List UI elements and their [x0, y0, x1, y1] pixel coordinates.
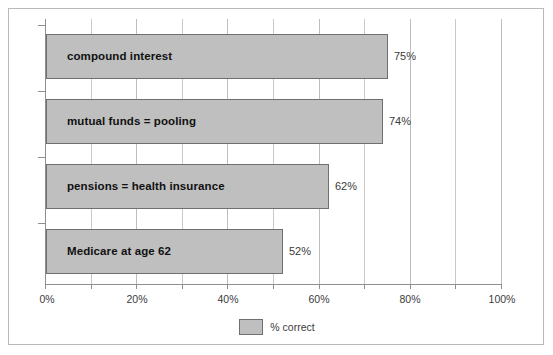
x-axis-tick-10 [91, 284, 92, 289]
bar-label: mutual funds = pooling [67, 99, 196, 144]
legend-label: % correct [270, 321, 314, 333]
bar-label: compound interest [67, 34, 172, 79]
bar-label: pensions = health insurance [67, 164, 225, 209]
x-axis-tick-30 [182, 284, 183, 289]
x-axis-tick-label: 40% [217, 293, 238, 305]
x-axis-tick-100 [501, 284, 502, 289]
x-axis-tick-label: 60% [308, 293, 329, 305]
x-axis-tick-0 [45, 284, 46, 289]
y-axis-tick-3 [38, 223, 45, 224]
x-axis-tick-label: 80% [399, 293, 420, 305]
x-axis-tick-70 [364, 284, 365, 289]
bar-value-label: 62% [335, 164, 357, 209]
bar-value-label: 75% [394, 34, 416, 79]
x-axis-tick-80 [410, 284, 411, 289]
gridline-90 [455, 19, 456, 284]
x-axis-tick-label: 20% [126, 293, 147, 305]
y-axis-tick-2 [38, 157, 45, 158]
x-axis-tick-40 [227, 284, 228, 289]
legend-swatch-percent-correct [239, 319, 263, 335]
bar-value-label: 52% [289, 229, 311, 274]
x-axis-tick-label: 100% [489, 293, 516, 305]
chart-frame: compound interest 75% mutual funds = poo… [8, 8, 544, 345]
bar-value-label: 74% [389, 99, 411, 144]
x-axis-tick-90 [455, 284, 456, 289]
chart-legend: % correct [9, 319, 544, 335]
x-axis-tick-60 [319, 284, 320, 289]
x-axis-tick-20 [136, 284, 137, 289]
gridline-100 [501, 19, 502, 284]
x-axis-tick-label: 0% [39, 293, 54, 305]
bar-label: Medicare at age 62 [67, 229, 171, 274]
y-axis-tick-0 [38, 25, 45, 26]
x-axis-tick-50 [273, 284, 274, 289]
plot-area: compound interest 75% mutual funds = poo… [45, 19, 501, 284]
y-axis-tick-1 [38, 91, 45, 92]
